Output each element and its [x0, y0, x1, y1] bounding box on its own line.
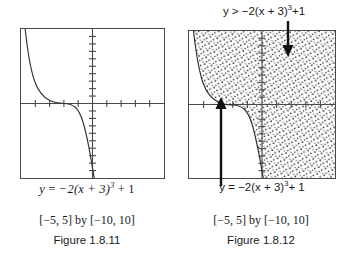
figure-number-right: Figure 1.8.12	[174, 234, 348, 246]
window-caption-left: [−5, 5] by [−10, 10]	[0, 213, 174, 228]
equation-relation-right: =	[228, 181, 235, 193]
plot-frame-left	[20, 28, 165, 179]
equation-label-left: y = −2(x + 3)3 + 1	[0, 182, 174, 197]
inequality-region-plot	[189, 31, 335, 178]
inequality-label-top: y > −2(x + 3)3+1	[184, 5, 344, 17]
equation-relation: =	[48, 182, 55, 196]
figure-1-8-11: y = −2(x + 3)3 + 1 [−5, 5] by [−10, 10] …	[0, 0, 174, 262]
equation-label-right: y = −2(x + 3)3+ 1	[182, 181, 342, 193]
inequality-relation: >	[232, 5, 239, 17]
plot-frame-right	[188, 30, 336, 179]
window-caption-right: [−5, 5] by [−10, 10]	[174, 213, 348, 228]
equation-lhs: y	[39, 182, 45, 196]
inequality-lhs: y	[223, 5, 229, 17]
equation-rhs-suffix: + 1	[118, 182, 135, 196]
figure-1-8-12: y > −2(x + 3)3+1	[174, 0, 348, 262]
figure-number-left: Figure 1.8.11	[0, 234, 174, 246]
equation-exponent: 3	[110, 181, 114, 190]
equation-rhs-prefix: −2(x + 3)	[59, 182, 110, 196]
equation-rhs-suffix-right: + 1	[288, 181, 304, 193]
equation-lhs-right: y	[219, 181, 225, 193]
inequality-rhs-prefix: −2(x + 3)	[242, 5, 288, 17]
inequality-rhs-suffix: +1	[292, 5, 305, 17]
cubic-curve-plot	[21, 29, 164, 178]
equation-rhs-prefix-right: −2(x + 3)	[238, 181, 284, 193]
figure-pair: y = −2(x + 3)3 + 1 [−5, 5] by [−10, 10] …	[0, 0, 348, 262]
